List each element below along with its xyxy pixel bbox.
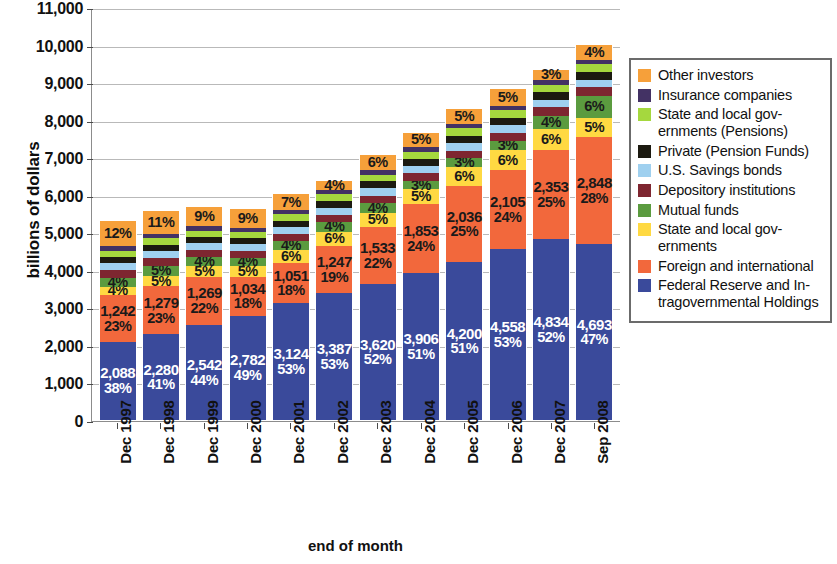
bar-segment[interactable]: 3% [533, 70, 569, 80]
bar-segment[interactable] [576, 64, 612, 72]
bar-segment[interactable] [533, 85, 569, 93]
bar-segment[interactable]: 1,24719% [316, 246, 352, 293]
legend-item[interactable]: Private (Pension Funds) [638, 143, 826, 160]
bar-segment[interactable]: 1,03418% [230, 277, 266, 316]
bar-segment[interactable]: 3% [490, 141, 526, 151]
bar-segment[interactable]: 5% [490, 89, 526, 105]
stacked-bar[interactable]: 2,08838%1,24223%4%4%12% [99, 220, 137, 421]
bar-segment[interactable]: 5% [403, 133, 439, 147]
bar-segment[interactable]: 11% [143, 211, 179, 234]
bar-segment[interactable]: 4,55853% [490, 249, 526, 420]
bar-column[interactable]: 2,78249%1,03418%5%4%9% [226, 9, 269, 421]
bar-segment[interactable]: 12% [100, 221, 136, 246]
bar-segment[interactable]: 3% [446, 158, 482, 167]
bar-segment[interactable]: 3,90651% [403, 273, 439, 420]
bar-segment[interactable]: 5% [446, 109, 482, 124]
bar-segment[interactable] [533, 107, 569, 115]
segment-value-label: 1,269 [187, 285, 222, 301]
bar-column[interactable]: 3,90651%1,85324%5%3%5% [399, 9, 442, 421]
bar-segment[interactable] [576, 87, 612, 95]
bar-segment[interactable]: 6% [576, 96, 612, 119]
bar-segment[interactable] [533, 100, 569, 108]
legend-item[interactable]: Depository institutions [638, 182, 826, 199]
bar-segment[interactable] [446, 128, 482, 135]
segment-percent-label: 52% [360, 352, 395, 367]
bar-segment[interactable]: 9% [230, 209, 266, 228]
bar-segment[interactable]: 4,20051% [446, 262, 482, 420]
legend-swatch [638, 260, 651, 273]
bar-segment[interactable] [186, 243, 222, 250]
bar-segment[interactable] [273, 210, 309, 214]
stacked-bar[interactable]: 4,69347%2,84828%5%6%4% [575, 44, 613, 421]
bar-segment[interactable] [403, 147, 439, 151]
bar-column[interactable]: 4,69347%2,84828%5%6%4% [573, 9, 616, 421]
segment-value-label: 1,279 [143, 295, 178, 311]
bar-segment[interactable] [360, 170, 396, 174]
bar-segment[interactable]: 6% [490, 150, 526, 170]
segment-percent-label: 49% [230, 368, 265, 383]
bar-column[interactable]: 3,62052%1,53322%5%4%6% [356, 9, 399, 421]
bar-segment[interactable]: 4,69347% [576, 244, 612, 420]
bar-segment[interactable] [490, 106, 526, 111]
segment-percent-label: 23% [143, 311, 178, 326]
bar-column[interactable]: 2,08838%1,24223%4%4%12% [96, 9, 139, 421]
y-axis-tick-label: 11,000 [37, 0, 83, 18]
bar-segment[interactable]: 4% [316, 181, 352, 191]
bar-segment[interactable]: 1,27923% [143, 286, 179, 334]
bar-segment[interactable]: 1,26922% [186, 277, 222, 325]
bar-segment[interactable]: 2,35325% [533, 150, 569, 238]
stacked-bar[interactable]: 2,28041%1,27923%5%5%11% [142, 210, 180, 421]
legend-item[interactable]: Other investors [638, 67, 826, 84]
bar-segment[interactable] [490, 133, 526, 141]
bar-segment[interactable] [576, 60, 612, 65]
legend-item[interactable]: State and local gov-ernments (Pensions) [638, 106, 826, 139]
bar-segment[interactable]: 9% [186, 207, 222, 227]
legend-item[interactable]: Insurance companies [638, 87, 826, 104]
bar-segment[interactable]: 1,85324% [403, 204, 439, 274]
segment-percent-label: 11% [148, 215, 175, 230]
bar-segment[interactable] [143, 238, 179, 244]
bar-segment[interactable]: 5% [576, 118, 612, 137]
legend-item[interactable]: U.S. Savings bonds [638, 162, 826, 179]
bar-segment[interactable] [446, 124, 482, 129]
bar-segment[interactable]: 1,53322% [360, 227, 396, 285]
bar-column[interactable]: 4,20051%2,03625%6%3%5% [443, 9, 486, 421]
stacked-bar[interactable]: 2,54244%1,26922%5%4%9% [185, 206, 223, 421]
bar-segment[interactable] [143, 245, 179, 251]
bar-segment[interactable]: 1,05118% [273, 263, 309, 302]
bar-segment[interactable]: 7% [273, 194, 309, 210]
legend-item[interactable]: State and local gov-ernments [638, 221, 826, 254]
bar-segment[interactable] [186, 237, 222, 243]
bar-segment[interactable]: 2,84828% [576, 137, 612, 244]
bar-segment[interactable]: 4,83452% [533, 239, 569, 420]
bar-segment[interactable]: 2,03625% [446, 186, 482, 262]
legend-label: State and local gov-ernments [658, 221, 782, 254]
bar-segment[interactable] [186, 231, 222, 237]
x-axis-tick-label: Dec 1999 [204, 400, 221, 463]
bar-segment[interactable] [533, 92, 569, 100]
bar-column[interactable]: 4,83452%2,35325%6%4%3% [529, 9, 572, 421]
stacked-bar[interactable]: 4,20051%2,03625%6%3%5% [445, 108, 483, 421]
legend-item[interactable]: Mutual funds [638, 202, 826, 219]
bar-segment[interactable] [143, 234, 179, 239]
bar-segment[interactable] [576, 72, 612, 80]
bar-segment[interactable] [576, 80, 612, 87]
bar-segment[interactable] [230, 228, 266, 232]
bar-segment[interactable]: 2,10524% [490, 170, 526, 249]
segment-percent-label: 53% [273, 362, 308, 377]
legend-item[interactable]: Foreign and international [638, 258, 826, 275]
stacked-bar[interactable]: 4,55853%2,10524%6%3%5% [489, 88, 527, 421]
legend-item[interactable]: Federal Reserve and In-tragovernmental H… [638, 277, 826, 310]
bar-segment[interactable]: 4% [576, 45, 612, 60]
x-axis-tick-label: Dec 2006 [508, 400, 525, 463]
bar-column[interactable]: 2,54244%1,26922%5%4%9% [183, 9, 226, 421]
bar-segment[interactable] [100, 251, 136, 258]
bar-segment[interactable]: 6% [360, 155, 396, 171]
bar-segment[interactable]: 1,24223% [100, 295, 136, 342]
bar-segment[interactable]: 4% [360, 203, 396, 213]
bar-segment[interactable] [186, 226, 222, 230]
bar-segment[interactable] [100, 246, 136, 251]
bar-column[interactable]: 2,28041%1,27923%5%5%11% [139, 9, 182, 421]
bar-column[interactable]: 3,12453%1,05118%6%4%7% [269, 9, 312, 421]
x-axis-tick-label: Dec 2001 [290, 400, 307, 463]
